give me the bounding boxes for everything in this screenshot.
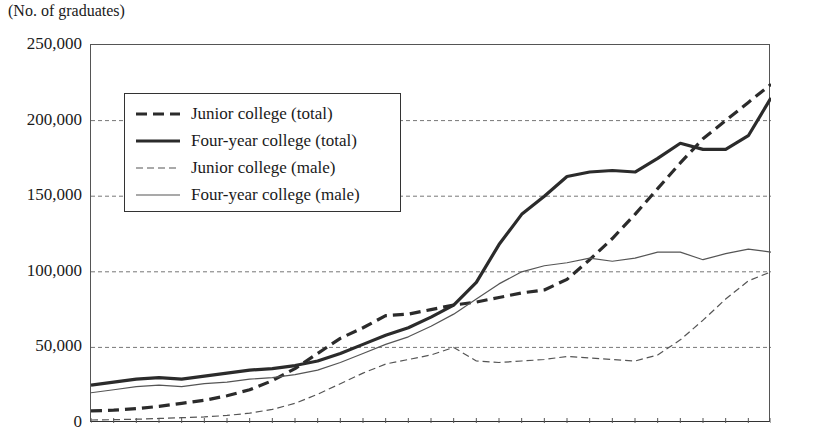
legend-item-label: Junior college (male)	[191, 159, 335, 176]
y-axis-tick-label: 0	[0, 413, 82, 430]
legend-item-label: Four-year college (total)	[191, 132, 357, 149]
legend-swatch-thin-solid-icon	[135, 188, 181, 202]
y-axis-tick-label: 200,000	[0, 111, 82, 128]
legend-swatch-thick-dashed-icon	[135, 107, 181, 121]
chart-legend: Junior college (total)Four-year college …	[124, 93, 401, 212]
legend-item: Junior college (total)	[135, 100, 400, 127]
y-axis-tick-label: 50,000	[0, 337, 82, 354]
legend-item: Junior college (male)	[135, 154, 400, 181]
legend-item: Four-year college (male)	[135, 181, 400, 208]
legend-item: Four-year college (total)	[135, 127, 400, 154]
legend-swatch-thin-dashed-icon	[135, 161, 181, 175]
legend-swatch-thick-solid-icon	[135, 134, 181, 148]
y-axis-tick-label: 100,000	[0, 262, 82, 279]
legend-item-label: Junior college (total)	[191, 105, 333, 122]
y-axis-tick-label: 150,000	[0, 186, 82, 203]
data-series-line	[91, 272, 771, 420]
y-axis-tick-labels: 250,000200,000150,000100,00050,0000	[0, 0, 82, 426]
y-axis-tick-label: 250,000	[0, 35, 82, 52]
legend-item-label: Four-year college (male)	[191, 186, 360, 203]
data-series-line	[91, 249, 771, 393]
